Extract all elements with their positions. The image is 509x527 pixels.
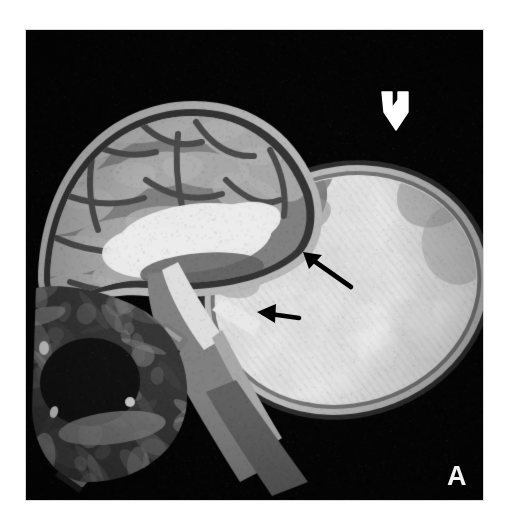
mri-scan-plate: A: [26, 30, 483, 500]
panel-label: A: [447, 463, 467, 490]
figure-panel: A: [0, 0, 509, 527]
mri-sagittal-image: [26, 30, 483, 500]
